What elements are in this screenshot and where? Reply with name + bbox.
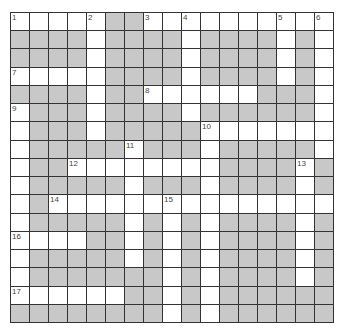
answer-cell[interactable] <box>239 86 257 103</box>
answer-cell[interactable] <box>11 159 29 176</box>
answer-cell[interactable] <box>87 68 105 85</box>
answer-cell[interactable] <box>277 31 295 48</box>
answer-cell[interactable] <box>296 232 314 249</box>
answer-cell[interactable] <box>11 122 29 139</box>
answer-cell[interactable] <box>239 122 257 139</box>
answer-cell[interactable] <box>201 13 219 30</box>
answer-cell[interactable] <box>296 214 314 231</box>
answer-cell[interactable] <box>30 287 48 304</box>
answer-cell[interactable] <box>296 122 314 139</box>
answer-cell[interactable] <box>201 141 219 158</box>
answer-cell[interactable] <box>144 195 162 212</box>
answer-cell[interactable] <box>125 214 143 231</box>
answer-cell[interactable] <box>87 195 105 212</box>
answer-cell[interactable] <box>11 268 29 285</box>
answer-cell[interactable] <box>258 122 276 139</box>
answer-cell[interactable] <box>87 122 105 139</box>
answer-cell[interactable] <box>201 232 219 249</box>
answer-cell[interactable] <box>68 287 86 304</box>
answer-cell[interactable] <box>201 305 219 322</box>
answer-cell[interactable] <box>201 268 219 285</box>
answer-cell[interactable] <box>163 214 181 231</box>
answer-cell[interactable] <box>182 31 200 48</box>
answer-cell[interactable] <box>144 159 162 176</box>
answer-cell[interactable] <box>201 287 219 304</box>
answer-cell[interactable] <box>239 195 257 212</box>
answer-cell[interactable] <box>220 86 238 103</box>
answer-cell[interactable] <box>106 159 124 176</box>
answer-cell[interactable]: 8 <box>144 86 162 103</box>
answer-cell[interactable] <box>258 195 276 212</box>
answer-cell[interactable]: 7 <box>11 68 29 85</box>
answer-cell[interactable] <box>163 305 181 322</box>
answer-cell[interactable]: 12 <box>68 159 86 176</box>
answer-cell[interactable] <box>201 159 219 176</box>
answer-cell[interactable] <box>296 13 314 30</box>
answer-cell[interactable] <box>201 177 219 194</box>
answer-cell[interactable]: 1 <box>11 13 29 30</box>
answer-cell[interactable] <box>87 31 105 48</box>
answer-cell[interactable] <box>68 68 86 85</box>
answer-cell[interactable] <box>11 250 29 267</box>
answer-cell[interactable]: 6 <box>315 13 333 30</box>
answer-cell[interactable] <box>182 104 200 121</box>
answer-cell[interactable]: 17 <box>11 287 29 304</box>
answer-cell[interactable] <box>201 250 219 267</box>
answer-cell[interactable] <box>163 86 181 103</box>
answer-cell[interactable]: 4 <box>182 13 200 30</box>
answer-cell[interactable] <box>49 68 67 85</box>
answer-cell[interactable] <box>163 250 181 267</box>
answer-cell[interactable] <box>277 122 295 139</box>
answer-cell[interactable] <box>125 250 143 267</box>
answer-cell[interactable] <box>201 86 219 103</box>
answer-cell[interactable] <box>87 287 105 304</box>
answer-cell[interactable] <box>182 86 200 103</box>
answer-cell[interactable] <box>315 49 333 66</box>
answer-cell[interactable] <box>30 232 48 249</box>
answer-cell[interactable] <box>239 13 257 30</box>
answer-cell[interactable] <box>182 195 200 212</box>
answer-cell[interactable] <box>182 49 200 66</box>
answer-cell[interactable] <box>296 268 314 285</box>
answer-cell[interactable] <box>125 159 143 176</box>
answer-cell[interactable] <box>68 232 86 249</box>
answer-cell[interactable] <box>277 49 295 66</box>
answer-cell[interactable] <box>296 177 314 194</box>
answer-cell[interactable] <box>315 104 333 121</box>
answer-cell[interactable] <box>11 177 29 194</box>
answer-cell[interactable] <box>11 141 29 158</box>
answer-cell[interactable] <box>220 13 238 30</box>
answer-cell[interactable] <box>220 122 238 139</box>
answer-cell[interactable] <box>296 195 314 212</box>
answer-cell[interactable] <box>11 214 29 231</box>
answer-cell[interactable] <box>315 122 333 139</box>
answer-cell[interactable] <box>201 195 219 212</box>
answer-cell[interactable] <box>163 232 181 249</box>
answer-cell[interactable] <box>315 31 333 48</box>
answer-cell[interactable] <box>315 68 333 85</box>
answer-cell[interactable] <box>163 287 181 304</box>
answer-cell[interactable] <box>106 287 124 304</box>
answer-cell[interactable] <box>49 13 67 30</box>
answer-cell[interactable] <box>125 177 143 194</box>
answer-cell[interactable] <box>11 195 29 212</box>
answer-cell[interactable] <box>258 13 276 30</box>
answer-cell[interactable] <box>125 195 143 212</box>
answer-cell[interactable] <box>296 250 314 267</box>
answer-cell[interactable]: 15 <box>163 195 181 212</box>
answer-cell[interactable] <box>182 159 200 176</box>
answer-cell[interactable] <box>315 141 333 158</box>
answer-cell[interactable] <box>163 159 181 176</box>
answer-cell[interactable]: 10 <box>201 122 219 139</box>
answer-cell[interactable] <box>163 268 181 285</box>
answer-cell[interactable] <box>49 232 67 249</box>
answer-cell[interactable]: 5 <box>277 13 295 30</box>
answer-cell[interactable] <box>68 195 86 212</box>
answer-cell[interactable] <box>220 195 238 212</box>
answer-cell[interactable] <box>201 214 219 231</box>
answer-cell[interactable] <box>277 195 295 212</box>
answer-cell[interactable] <box>125 232 143 249</box>
answer-cell[interactable] <box>87 86 105 103</box>
answer-cell[interactable]: 14 <box>49 195 67 212</box>
answer-cell[interactable] <box>106 195 124 212</box>
